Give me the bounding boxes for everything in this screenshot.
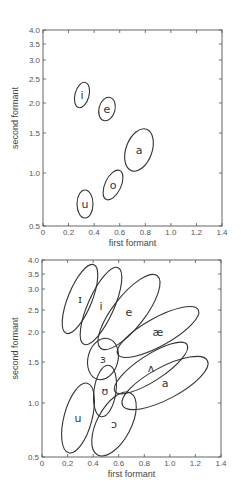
x-tick-label: 0.8	[140, 228, 152, 237]
y-tick-label: 2.0	[29, 99, 41, 108]
x-tick-label: 0.8	[139, 459, 151, 468]
top-vowel-chart: 00.20.40.60.81.01.21.40.51.01.52.02.53.0…	[10, 26, 228, 248]
vowel-label: æ	[153, 326, 164, 339]
vowel-region: a	[119, 125, 158, 175]
x-tick-label: 0.4	[88, 459, 100, 468]
vowel-label: ʊ	[102, 385, 109, 398]
vowel-region: o	[99, 167, 127, 203]
y-tick-label: 2.5	[29, 75, 41, 84]
vowel-formant-figure: 00.20.40.60.81.01.21.40.51.01.52.02.53.0…	[0, 0, 241, 500]
x-tick-label: 1.0	[165, 228, 177, 237]
x-axis-label: first formant	[108, 469, 156, 479]
vowel-label: o	[110, 179, 117, 192]
vowel-label: i	[99, 300, 102, 313]
x-tick-label: 0.2	[63, 228, 75, 237]
x-tick-label: 1.2	[191, 228, 203, 237]
x-tick-label: 1.2	[190, 459, 202, 468]
y-tick-label: 4.0	[28, 256, 40, 265]
vowel-region: i	[72, 81, 92, 110]
vowel-label: u	[75, 412, 82, 425]
x-tick-label: 0.4	[89, 228, 101, 237]
x-tick-label: 0	[40, 459, 45, 468]
vowel-region: ɔ	[83, 385, 146, 463]
vowel-region: e	[96, 95, 118, 122]
vowel-label: ɜ	[100, 353, 106, 366]
x-axis-label: first formant	[109, 238, 157, 248]
vowel-label: ɪ	[78, 293, 82, 306]
y-tick-label: 3.5	[28, 270, 40, 279]
vowel-label: e	[126, 306, 133, 319]
vowel-region: ɜ	[83, 335, 123, 383]
y-axis-label: second formant	[10, 86, 20, 149]
y-tick-label: 0.5	[29, 222, 41, 231]
y-tick-label: 2.5	[28, 306, 40, 315]
vowel-label: u	[82, 198, 89, 211]
y-tick-label: 1.5	[28, 358, 40, 367]
y-axis-label: second formant	[10, 317, 20, 380]
vowel-region: u	[77, 190, 93, 218]
vowel-region: ɪ	[55, 260, 105, 338]
plot-frame	[43, 30, 222, 226]
y-tick-label: 1.0	[29, 169, 41, 178]
vowel-label: a	[162, 377, 169, 390]
y-tick-label: 4.0	[29, 26, 41, 35]
x-tick-label: 0.6	[113, 459, 125, 468]
y-tick-label: 3.0	[28, 285, 40, 294]
vowel-label: a	[136, 144, 143, 157]
y-tick-label: 3.0	[29, 56, 41, 65]
x-tick-label: 1.0	[164, 459, 176, 468]
y-tick-label: 3.5	[29, 40, 41, 49]
y-tick-label: 2.0	[28, 328, 40, 337]
x-tick-label: 0.6	[114, 228, 126, 237]
x-tick-label: 0	[41, 228, 46, 237]
x-tick-label: 1.4	[216, 228, 228, 237]
y-tick-label: 0.5	[28, 453, 40, 462]
y-tick-label: 1.0	[28, 399, 40, 408]
x-tick-label: 1.4	[215, 459, 227, 468]
vowel-label: i	[80, 89, 83, 102]
bottom-vowel-chart: 00.20.40.60.81.01.21.40.51.01.52.02.53.0…	[10, 256, 227, 479]
vowel-label: ɔ	[111, 418, 117, 431]
y-tick-label: 1.5	[29, 129, 41, 138]
x-tick-label: 0.2	[62, 459, 74, 468]
vowel-region: i	[72, 262, 130, 349]
vowel-label: e	[104, 103, 111, 116]
